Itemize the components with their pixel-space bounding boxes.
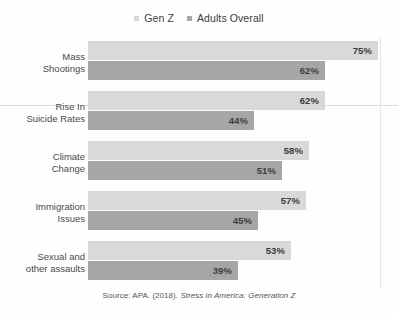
bar-pair: 57% 45% — [88, 190, 398, 234]
chart-legend: Gen Z Adults Overall — [0, 12, 398, 24]
bar-gen-z[interactable]: 57% — [88, 191, 306, 210]
legend-label-gen-z: Gen Z — [144, 12, 174, 24]
bar-value-label: 75% — [353, 45, 378, 56]
bar-gen-z[interactable]: 58% — [88, 141, 309, 160]
bar-value-label: 39% — [213, 265, 238, 276]
bar-group: Climate Change 58% 51% — [0, 140, 398, 184]
legend-swatch-adults-overall — [187, 16, 192, 21]
bar-group: Sexual and other assaults 53% 39% — [0, 240, 398, 284]
bar-adults-overall[interactable]: 62% — [88, 61, 325, 80]
bar-group: Mass Shootings 75% 62% — [0, 40, 398, 84]
bar-chart: Gen Z Adults Overall Mass Shootings 75% … — [0, 0, 398, 314]
bar-pair: 58% 51% — [88, 140, 398, 184]
category-label: Mass Shootings — [0, 51, 85, 74]
bar-adults-overall[interactable]: 39% — [88, 261, 238, 280]
bar-group: Rise In Suicide Rates 62% 44% — [0, 90, 398, 134]
bar-value-label: 57% — [281, 195, 306, 206]
legend-label-adults-overall: Adults Overall — [197, 12, 264, 24]
bar-group: Immigration Issues 57% 45% — [0, 190, 398, 234]
category-label: Climate Change — [0, 151, 85, 174]
bar-gen-z[interactable]: 53% — [88, 241, 291, 260]
bar-adults-overall[interactable]: 45% — [88, 211, 258, 230]
source-note-prefix: Source: APA. (2018). — [103, 291, 181, 300]
bar-value-label: 45% — [233, 215, 258, 226]
category-label: Rise In Suicide Rates — [0, 101, 85, 124]
bar-value-label: 62% — [300, 65, 325, 76]
bar-value-label: 62% — [300, 95, 325, 106]
bar-pair: 75% 62% — [88, 40, 398, 84]
bar-gen-z[interactable]: 75% — [88, 41, 378, 60]
bar-value-label: 58% — [284, 145, 309, 156]
category-label: Immigration Issues — [0, 201, 85, 224]
legend-swatch-gen-z — [134, 16, 139, 21]
bar-value-label: 53% — [266, 245, 291, 256]
bar-gen-z[interactable]: 62% — [88, 91, 325, 110]
bar-adults-overall[interactable]: 44% — [88, 111, 254, 130]
bar-pair: 53% 39% — [88, 240, 398, 284]
bar-value-label: 44% — [229, 115, 254, 126]
source-note: Source: APA. (2018). Stress in America: … — [0, 291, 398, 300]
bar-adults-overall[interactable]: 51% — [88, 161, 282, 180]
source-note-title: Stress in America: Generation Z — [180, 291, 295, 300]
legend-item-gen-z[interactable]: Gen Z — [134, 12, 174, 24]
bar-value-label: 51% — [257, 165, 282, 176]
bar-pair: 62% 44% — [88, 90, 398, 134]
legend-item-adults-overall[interactable]: Adults Overall — [187, 12, 264, 24]
category-label: Sexual and other assaults — [0, 251, 85, 274]
plot-area: Mass Shootings 75% 62% Rise In Suicide R… — [0, 36, 398, 288]
